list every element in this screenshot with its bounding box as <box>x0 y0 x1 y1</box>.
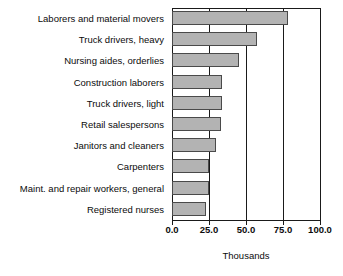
value-axis-title: Thousands <box>172 250 320 262</box>
category-axis-labels: Laborers and material moversTruck driver… <box>0 8 168 220</box>
bar <box>172 138 216 152</box>
bar <box>172 53 239 67</box>
category-label: Carpenters <box>0 161 164 172</box>
bar <box>172 159 209 173</box>
bar <box>172 96 222 110</box>
category-label: Truck drivers, light <box>0 98 164 109</box>
category-label: Laborers and material movers <box>0 13 164 24</box>
bar <box>172 75 222 89</box>
category-label: Janitors and cleaners <box>0 140 164 151</box>
bar-chart: Laborers and material moversTruck driver… <box>0 0 343 276</box>
bar <box>172 11 288 25</box>
category-label: Retail salespersons <box>0 119 164 130</box>
category-label: Maint. and repair workers, general <box>0 183 164 194</box>
category-label: Nursing aides, orderlies <box>0 55 164 66</box>
bar <box>172 117 221 131</box>
bar <box>172 181 209 195</box>
bar <box>172 32 257 46</box>
gridline <box>320 8 321 220</box>
tick-label: 100.0 <box>298 224 342 236</box>
bar <box>172 202 206 216</box>
value-axis-tick-labels: 0.025.050.075.0100.0 <box>172 224 332 238</box>
gridline <box>283 8 284 220</box>
tick-mark-top <box>320 8 321 12</box>
category-label: Truck drivers, heavy <box>0 34 164 45</box>
category-label: Construction laborers <box>0 77 164 88</box>
plot-area <box>172 8 320 220</box>
category-label: Registered nurses <box>0 204 164 215</box>
